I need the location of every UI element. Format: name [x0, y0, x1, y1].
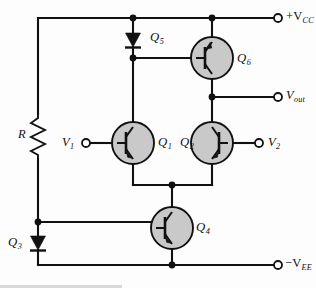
dot-vcc-q6 — [209, 15, 216, 22]
transistor-Q2 — [191, 122, 255, 185]
label-Q3: Q3 — [8, 236, 22, 249]
label-resistor-R: R — [18, 128, 26, 141]
resistor-R-symbol — [31, 114, 45, 159]
dot-q5-cathode — [130, 55, 137, 62]
label-vee: −VEE — [285, 257, 311, 270]
terminal-v1[interactable] — [82, 139, 90, 147]
label-Q5: Q5 — [150, 31, 164, 44]
transistor-Q6 — [190, 18, 233, 97]
transistor-Q1 — [90, 122, 154, 185]
label-vcc: +VCC — [286, 10, 313, 23]
label-Q6: Q6 — [237, 52, 251, 65]
diode-Q3-symbol — [30, 222, 46, 265]
tail-node — [133, 182, 212, 207]
terminal-vout[interactable] — [274, 93, 282, 101]
transistor-Q4 — [38, 207, 193, 265]
label-Q4: Q4 — [196, 221, 210, 234]
terminal-vee[interactable] — [274, 261, 282, 269]
schematic-canvas: +VCC Vout V2 V1 −VEE R Q5 Q6 Q1 Q2 Q4 Q3 — [0, 0, 316, 288]
terminal-vcc[interactable] — [274, 14, 282, 22]
label-vout: Vout — [286, 89, 305, 102]
dot-vcc-q5 — [130, 15, 137, 22]
terminal-v2[interactable] — [255, 139, 263, 147]
label-Q1: Q1 — [158, 136, 172, 149]
vout-branch — [209, 94, 278, 122]
label-v2: V2 — [268, 136, 280, 149]
label-v1: V1 — [62, 136, 74, 149]
left-bias-branch — [30, 18, 46, 265]
dot-vee-q4 — [169, 262, 176, 269]
dot-q3-anode — [35, 219, 42, 226]
label-Q2: Q2 — [180, 136, 194, 149]
